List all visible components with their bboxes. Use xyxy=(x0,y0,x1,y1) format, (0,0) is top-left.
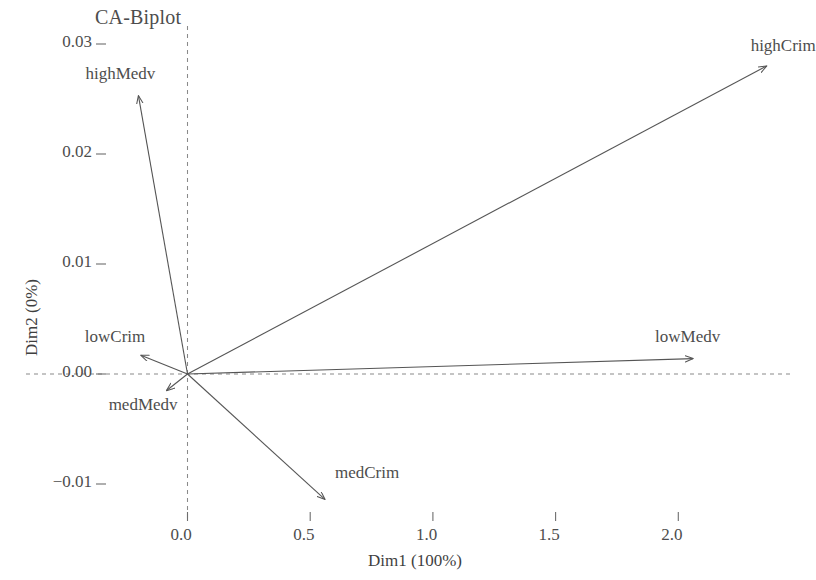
vector-label-highmedv: highMedv xyxy=(85,64,155,84)
y-tick-label: 0.02 xyxy=(62,142,92,162)
y-tick-label: 0.00 xyxy=(62,362,92,382)
biplot-vector-arrow xyxy=(138,96,187,374)
vector-label-medcrim: medCrim xyxy=(335,463,399,483)
biplot-vector-arrow xyxy=(141,355,188,374)
y-axis-ticks xyxy=(96,44,106,484)
x-tick-label: 1.0 xyxy=(416,525,437,545)
x-tick-label: 2.0 xyxy=(661,525,682,545)
x-tick-label: 0.0 xyxy=(171,525,192,545)
x-axis-ticks xyxy=(188,512,679,521)
x-tick-label: 1.5 xyxy=(539,525,560,545)
vector-label-highcrim: highCrim xyxy=(751,36,816,56)
biplot-vector-arrow xyxy=(167,374,188,391)
biplot-vector-group xyxy=(138,66,766,499)
y-tick-label: 0.03 xyxy=(62,32,92,52)
vector-label-medmedv: medMedv xyxy=(109,395,178,415)
chart-title: CA-Biplot xyxy=(95,6,181,29)
biplot-vector-arrow xyxy=(188,374,325,499)
x-axis-title: Dim1 (100%) xyxy=(368,551,462,571)
vector-label-lowcrim: lowCrim xyxy=(85,327,145,347)
biplot-vector-arrow xyxy=(188,359,694,374)
y-axis-title: Dim2 (0%) xyxy=(22,279,42,356)
vector-label-lowmedv: lowMedv xyxy=(655,327,720,347)
y-tick-label: 0.01 xyxy=(62,252,92,272)
y-tick-label: −0.01 xyxy=(53,472,92,492)
x-tick-label: 0.5 xyxy=(293,525,314,545)
